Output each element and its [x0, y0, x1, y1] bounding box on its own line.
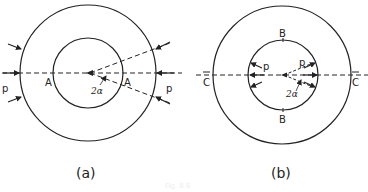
panel-a: A A p p 2α (a) — [2, 5, 182, 181]
pressure-label-right: p — [299, 57, 305, 68]
figure-caption: Fig. 8.6 — [165, 182, 191, 190]
point-label-c-left: C — [203, 77, 210, 88]
center-arrow-icon — [86, 70, 93, 76]
point-label-b-top: B — [279, 28, 286, 39]
arrow-icon — [304, 82, 315, 87]
point-label-b-bottom: B — [279, 114, 286, 125]
arrow-icon — [8, 44, 21, 49]
point-label-a-left: A — [45, 77, 52, 88]
angle-label: 2α — [90, 86, 103, 96]
panel-label-a: (a) — [76, 165, 96, 181]
arrow-icon — [251, 63, 262, 68]
pressure-label-left: p — [263, 61, 269, 72]
point-label-c-right: C — [352, 77, 359, 88]
pressure-label-left: p — [2, 83, 8, 94]
panel-b: B B C C p p 2α (b) — [196, 6, 368, 181]
arrow-icon — [156, 97, 170, 104]
angle-label: 2α — [285, 89, 298, 99]
panel-label-b: (b) — [271, 165, 291, 181]
figure-canvas: A A p p 2α (a) B B C C p p 2α — [0, 0, 368, 192]
arrow-icon — [8, 97, 21, 102]
point-label-a-right: A — [124, 77, 131, 88]
arrow-icon — [251, 82, 262, 87]
center-arrow-icon — [281, 73, 287, 78]
arrow-icon — [156, 42, 170, 49]
pressure-label-right: p — [166, 83, 172, 94]
arrow-icon — [304, 63, 315, 68]
